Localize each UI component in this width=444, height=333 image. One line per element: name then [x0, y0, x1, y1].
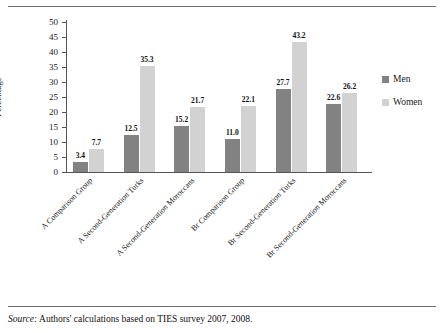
y-tick-label: 5 [54, 153, 59, 162]
bar-value-label: 35.3 [140, 56, 153, 64]
y-tick-label: 50 [49, 18, 58, 27]
bar-men [73, 162, 88, 172]
bar-women [140, 66, 155, 172]
legend-label-women: Women [393, 97, 422, 107]
source-note: Source: Authors' calculations based on T… [8, 313, 252, 325]
bar-value-label: 21.7 [191, 97, 204, 105]
figure-container: Percentage 05101520253035404550 3.47.712… [0, 0, 444, 333]
bar-value-label: 27.7 [276, 79, 289, 87]
y-axis-title-text: Percentage [0, 77, 3, 116]
figure-bottom-rule [8, 306, 436, 307]
y-tick-label: 25 [49, 93, 58, 102]
figure-top-rule [8, 6, 436, 7]
legend-swatch-women-icon [382, 99, 389, 106]
bar-value-label: 3.4 [76, 152, 85, 160]
chart-legend: Men Women [382, 74, 442, 120]
y-tick-label: 0 [54, 168, 59, 177]
bar-value-label: 26.2 [343, 83, 356, 91]
bar-value-label: 7.7 [92, 139, 101, 147]
y-tick-label: 10 [49, 138, 58, 147]
x-category-label-text: Br Comparison Group [190, 176, 247, 233]
y-tick-label: 35 [49, 63, 58, 72]
legend-item-women: Women [382, 97, 442, 107]
bar-value-label: 22.6 [327, 94, 340, 102]
legend-swatch-men-icon [382, 76, 389, 83]
bar-women [292, 42, 307, 172]
y-tick-label: 40 [49, 48, 58, 57]
y-tick-mark [62, 172, 66, 173]
y-tick-label: 20 [49, 108, 58, 117]
x-category-label-text: A Comparison Group [40, 176, 95, 231]
legend-label-men: Men [393, 74, 410, 84]
bar-value-label: 43.2 [292, 32, 305, 40]
source-label: Source: [8, 314, 37, 324]
x-axis-line [66, 172, 372, 173]
source-text: Authors' calculations based on TIES surv… [37, 314, 252, 324]
legend-item-men: Men [382, 74, 442, 84]
bar-value-label: 22.1 [242, 96, 255, 104]
y-tick-label: 45 [49, 33, 58, 42]
y-tick-label: 30 [49, 78, 58, 87]
bar-value-label: 15.2 [175, 116, 188, 124]
y-tick-label: 15 [49, 123, 58, 132]
